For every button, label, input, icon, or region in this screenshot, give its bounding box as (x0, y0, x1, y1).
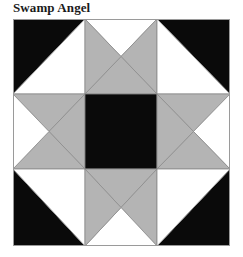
cell-r1-c1-center-square (85, 94, 157, 169)
swamp-angel-quilt-block (13, 19, 230, 246)
block-title: Swamp Angel (13, 0, 90, 16)
quilt-block-diagram (13, 19, 230, 246)
